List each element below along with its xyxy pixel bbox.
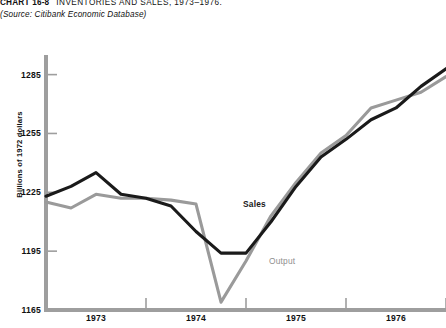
y-axis-ticks [48, 75, 57, 252]
series-line-sales [46, 69, 446, 253]
series-label-output: Output [269, 256, 295, 266]
x-axis-ticks [146, 298, 446, 308]
chart-figure: CHART 16-8INVENTORIES AND SALES, 1973–19… [0, 0, 446, 328]
series-label-sales: Sales [243, 199, 266, 209]
series-line-output [46, 77, 446, 303]
plot-area [0, 0, 446, 328]
